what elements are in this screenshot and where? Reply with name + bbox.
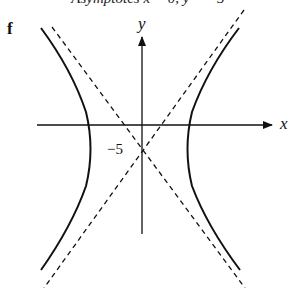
asymptote-1 bbox=[52, 27, 245, 288]
y-intercept-label: −5 bbox=[107, 141, 123, 158]
x-axis-label: x bbox=[280, 114, 288, 134]
y-axis-label: y bbox=[138, 14, 146, 34]
hyperbola-graph bbox=[0, 0, 296, 288]
right-branch bbox=[188, 28, 241, 270]
left-branch bbox=[41, 28, 91, 270]
